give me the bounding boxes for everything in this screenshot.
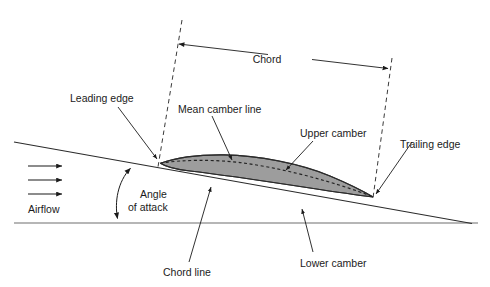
leading-edge-leader-line bbox=[118, 107, 157, 159]
airfoil-diagram-canvas: Chord Leading edge Mean camber line Uppe… bbox=[0, 0, 490, 287]
lower-camber-leader-line bbox=[302, 209, 313, 252]
airfoil-diagram: Chord Leading edge Mean camber line Uppe… bbox=[0, 0, 490, 287]
trailing-edge-station-dashed-line bbox=[373, 58, 392, 198]
leading-edge-label: Leading edge bbox=[70, 92, 134, 104]
chord-line-leader-line bbox=[189, 187, 211, 262]
mean-camber-line-label: Mean camber line bbox=[178, 103, 262, 115]
trailing-edge-label: Trailing edge bbox=[400, 138, 460, 150]
angle-of-attack-label-line1: Angle bbox=[140, 188, 167, 200]
airflow-label: Airflow bbox=[28, 203, 60, 215]
chord-line-label: Chord line bbox=[163, 266, 211, 278]
mean-camber-line-leader-line bbox=[212, 116, 232, 160]
leading-edge-station-dashed-line bbox=[158, 20, 183, 170]
chord-dimension-right-segment bbox=[312, 60, 388, 69]
upper-camber-label: Upper camber bbox=[300, 127, 367, 139]
chord-label: Chord bbox=[253, 53, 282, 65]
angle-of-attack-label-line2: of attack bbox=[128, 201, 168, 213]
lower-camber-label: Lower camber bbox=[300, 257, 367, 269]
airfoil-body-shape bbox=[161, 155, 374, 197]
